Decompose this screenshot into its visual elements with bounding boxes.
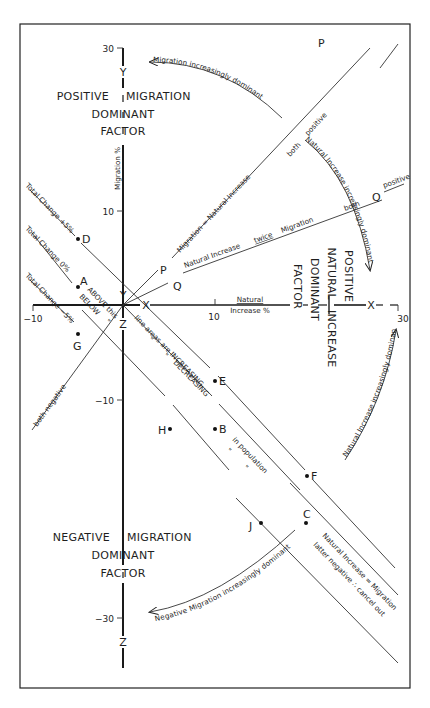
- svg-text:FACTOR: FACTOR: [100, 567, 145, 580]
- label-decreasing: DECREASING: [172, 358, 211, 398]
- x-tick-30: 30: [397, 314, 409, 324]
- label-in-population: in population: [231, 435, 270, 475]
- point-label-C: C: [303, 508, 311, 521]
- svg-text:FACTOR: FACTOR: [291, 264, 304, 309]
- diagram-frame: [20, 24, 410, 688]
- svg-text:Migration: Migration: [280, 215, 315, 235]
- label-migration-equals-natural: Migration = Natural Increase: [175, 172, 253, 254]
- y-axis-title: Migration %: [113, 147, 122, 190]
- svg-text:positive: positive: [303, 110, 329, 137]
- point-label-Q-far: Q: [372, 191, 381, 204]
- svg-text:MIGRATION: MIGRATION: [126, 90, 191, 103]
- point-label-P-far: P: [318, 37, 325, 50]
- point-label-J: J: [248, 520, 252, 533]
- svg-text:POSITIVE: POSITIVE: [57, 90, 109, 103]
- point-H: [168, 427, 172, 431]
- z-axis-letter-bottom: Z: [119, 636, 127, 649]
- point-label-A: A: [80, 275, 88, 288]
- svg-text:NEGATIVE: NEGATIVE: [53, 531, 110, 544]
- point-E: [213, 379, 217, 383]
- svg-text:both: both: [285, 140, 303, 158]
- label-natural-equals-migration: Natural Increase = Migration: [321, 531, 400, 612]
- y-axis-letter-origin: Y: [119, 289, 127, 302]
- label-natural-increase-twice: Natural Increase: [183, 241, 242, 270]
- y-tick-minus10: −10: [95, 396, 114, 406]
- label-total-change-zero: Total Change 0%: [23, 223, 72, 273]
- point-G: [76, 332, 80, 336]
- svg-text:NATURAL: NATURAL: [325, 247, 338, 300]
- svg-text:DOMINANT: DOMINANT: [92, 549, 155, 562]
- svg-text:twice: twice: [253, 230, 275, 245]
- x-axis-letter-far: X: [367, 299, 375, 312]
- svg-text:FACTOR: FACTOR: [100, 125, 145, 138]
- point-J: [259, 521, 263, 525]
- y-tick-minus30: −30: [95, 614, 114, 624]
- point-B: [213, 427, 217, 431]
- point-label-B: B: [219, 423, 227, 436]
- svg-text:INCREASE: INCREASE: [325, 310, 338, 368]
- point-C: [304, 521, 308, 525]
- arc-bottom-label: Negative Migration increasingly dominant: [154, 542, 292, 623]
- positive-migration-title: POSITIVE MIGRATION DOMINANT FACTOR: [57, 90, 191, 138]
- y-tick-10: 10: [103, 207, 115, 217]
- point-label-P-near: P: [160, 264, 167, 277]
- point-label-H: H: [158, 424, 166, 437]
- x-axis-title-line1: Natural: [237, 295, 264, 304]
- svg-text:POSITIVE: POSITIVE: [342, 250, 355, 302]
- svg-text:": ": [225, 446, 234, 455]
- z-axis-letter-origin: Z: [119, 318, 127, 331]
- point-label-Q-near: Q: [173, 280, 182, 293]
- x-tick-10: 10: [208, 312, 220, 322]
- point-D: [76, 237, 80, 241]
- point-label-E: E: [219, 375, 226, 388]
- x-axis-title-line2: Increase %: [230, 306, 270, 315]
- positive-natural-increase-title: POSITIVE NATURAL INCREASE DOMINANT FACTO…: [291, 247, 355, 367]
- point-label-G: G: [73, 340, 82, 353]
- x-axis-letter-origin: X: [142, 299, 150, 312]
- x-tick-minus10: −10: [24, 314, 43, 324]
- label-latter-negative: latter negative ∴ cancel out: [312, 540, 388, 618]
- point-label-F: F: [311, 470, 317, 483]
- svg-text:": ": [242, 463, 251, 472]
- svg-text:MIGRATION: MIGRATION: [127, 531, 192, 544]
- point-label-D: D: [82, 233, 90, 246]
- label-both-negative: both negative: [31, 382, 68, 428]
- y-axis-letter-top: Y: [119, 66, 127, 79]
- y-tick-30: 30: [103, 44, 115, 54]
- diagram-canvas: Migration increasingly dominant Natural …: [0, 0, 430, 708]
- svg-text:DOMINANT: DOMINANT: [92, 108, 155, 121]
- arc-right-upper-label: Natural Increase increasingly dominant: [304, 135, 376, 264]
- point-F: [305, 474, 309, 478]
- line-migration-equals-natural: [123, 270, 158, 305]
- svg-text:DOMINANT: DOMINANT: [308, 258, 321, 321]
